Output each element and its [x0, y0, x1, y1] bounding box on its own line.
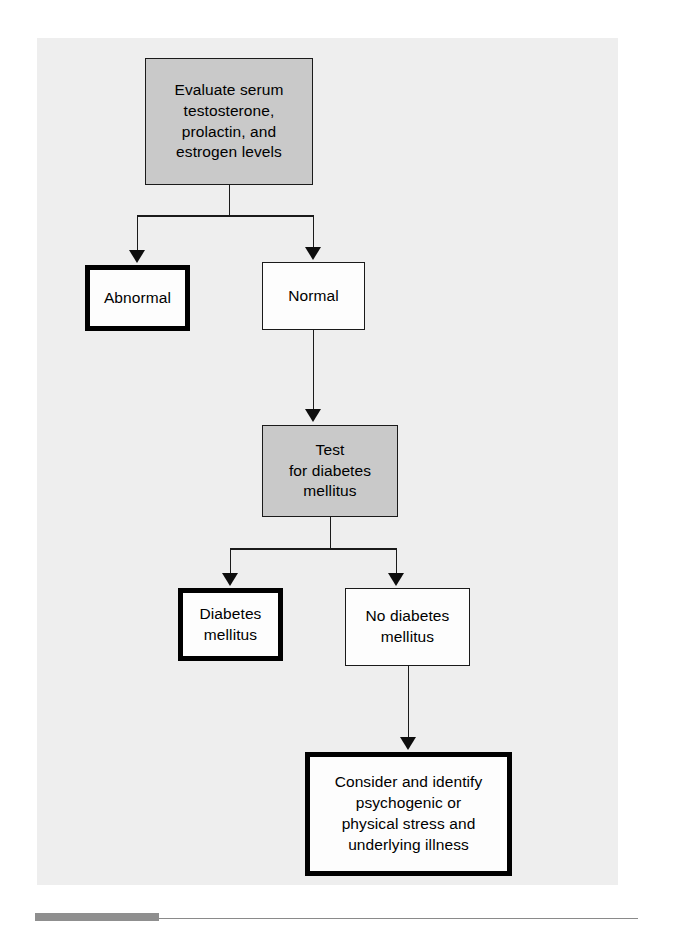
flow-node-diabetes-mellitus: Diabetes mellitus	[178, 588, 283, 661]
connector-evaluate-split-bar	[137, 215, 314, 217]
connector-test-to-diabetes	[230, 548, 232, 574]
connector-no-diabetes-to-consider	[408, 666, 410, 738]
figure-panel: Evaluate serum testosterone, prolactin, …	[37, 38, 618, 885]
connector-evaluate-to-abnormal	[137, 215, 139, 252]
flow-node-evaluate-hormones: Evaluate serum testosterone, prolactin, …	[145, 58, 313, 185]
connector-test-split-bar	[230, 548, 397, 550]
flow-node-consider-psychogenic-label: Consider and identify psychogenic or phy…	[331, 772, 487, 856]
arrowhead-to-consider	[400, 737, 416, 750]
arrowhead-to-test-diabetes	[305, 409, 321, 422]
flow-node-no-diabetes-mellitus: No diabetes mellitus	[345, 588, 470, 666]
flow-node-no-diabetes-mellitus-label: No diabetes mellitus	[362, 606, 454, 648]
flow-node-abnormal: Abnormal	[85, 265, 190, 331]
arrowhead-to-abnormal	[129, 250, 145, 263]
connector-test-stem	[330, 517, 332, 549]
arrowhead-to-no-diabetes	[388, 573, 404, 586]
page-divider-accent	[35, 913, 159, 921]
connector-normal-to-test	[313, 330, 315, 410]
flow-node-normal: Normal	[262, 262, 365, 330]
flow-node-test-for-diabetes: Test for diabetes mellitus	[262, 425, 398, 517]
flow-node-diabetes-mellitus-label: Diabetes mellitus	[196, 604, 266, 646]
arrowhead-to-diabetes	[222, 573, 238, 586]
arrowhead-to-normal	[305, 247, 321, 260]
connector-evaluate-stem	[229, 185, 231, 216]
flow-node-abnormal-label: Abnormal	[100, 288, 175, 309]
flow-node-test-for-diabetes-label: Test for diabetes mellitus	[285, 440, 375, 503]
flow-node-normal-label: Normal	[284, 286, 343, 307]
connector-test-to-no-diabetes	[396, 548, 398, 574]
flow-node-evaluate-hormones-label: Evaluate serum testosterone, prolactin, …	[170, 80, 287, 164]
connector-evaluate-to-normal	[313, 215, 315, 249]
flow-node-consider-psychogenic: Consider and identify psychogenic or phy…	[305, 752, 512, 876]
